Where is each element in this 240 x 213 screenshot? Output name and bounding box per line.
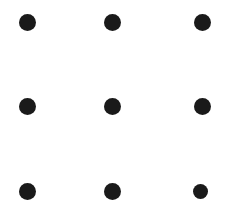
dot-top-left[interactable] <box>19 14 36 31</box>
dot-middle-right[interactable] <box>194 98 211 115</box>
dot-bottom-right[interactable] <box>193 184 208 199</box>
dot-middle-left[interactable] <box>19 98 36 115</box>
dot-bottom-center[interactable] <box>104 183 121 200</box>
dot-middle-center[interactable] <box>104 98 121 115</box>
dot-top-center[interactable] <box>104 14 121 31</box>
dot-top-right[interactable] <box>194 14 211 31</box>
nine-dots-canvas <box>0 0 240 213</box>
dot-bottom-left[interactable] <box>19 183 36 200</box>
